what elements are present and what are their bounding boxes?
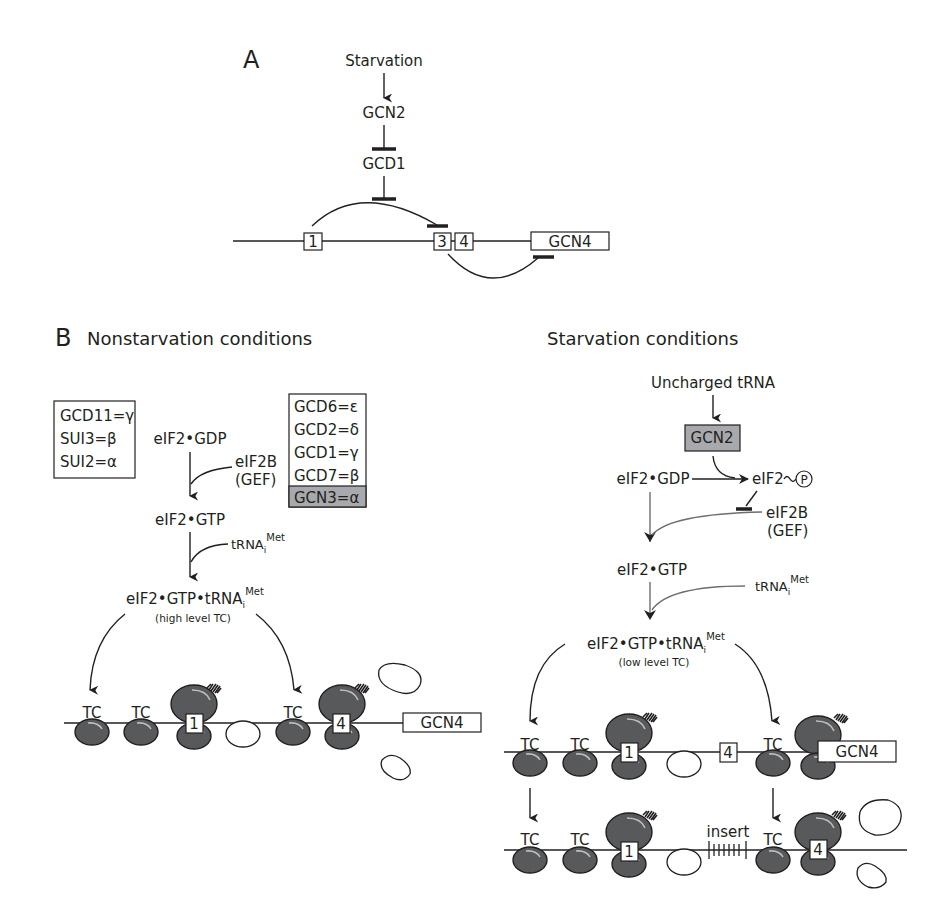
released-40s-subunit — [667, 751, 701, 777]
starvation-title: Starvation conditions — [547, 328, 738, 349]
gef-label: (GEF) — [235, 471, 276, 489]
released-40s-subunit — [381, 755, 410, 779]
eif2-gdp-label: eIF2•GDP — [617, 470, 690, 488]
tc-label: TC — [570, 831, 590, 849]
subunit-label: GCD7=β — [294, 467, 359, 485]
trna-input-curve — [191, 544, 228, 562]
subunit-label: SUI2=α — [60, 453, 117, 471]
eif2b-label: eIF2B — [766, 504, 808, 522]
subunit-label: GCD1=γ — [294, 444, 359, 462]
tc-label: TC — [763, 831, 783, 849]
released-60s-subunit — [379, 663, 421, 693]
trna-label: tRNAiMet — [231, 532, 285, 555]
eif2-gtp-label: eIF2•GTP — [617, 561, 687, 579]
gcn2-label: GCN2 — [691, 429, 734, 447]
subunit-label: SUI3=β — [60, 430, 117, 448]
uorf1-label: 1 — [189, 715, 199, 733]
scanning-40s-subunit — [756, 847, 790, 873]
scanning-40s-subunit — [276, 719, 310, 745]
panel-a-label: A — [243, 46, 260, 74]
gcn2-label: GCN2 — [363, 104, 406, 122]
trna-label: tRNAiMet — [755, 574, 809, 597]
released-60s-subunit — [859, 800, 901, 835]
scanning-40s-subunit — [563, 847, 597, 873]
uorf1-label: 1 — [624, 744, 634, 762]
phospho-bond-icon — [784, 477, 796, 482]
arrow-icon — [256, 614, 294, 690]
eif2b-input-curve — [191, 467, 232, 484]
gcn2-phosphorylation-curve — [713, 456, 735, 478]
released-40s-subunit — [857, 863, 886, 887]
panel-b-starvation: Starvation conditions Uncharged tRNA GCN… — [504, 328, 907, 888]
phosphate-label: P — [800, 473, 807, 487]
gcn3-label: GCN3=α — [294, 489, 359, 507]
scanning-40s-subunit — [513, 750, 547, 776]
arrow-icon — [90, 614, 125, 690]
uorf1-label: 1 — [308, 233, 318, 251]
tc-complex-label: eIF2•GTP•tRNAiMet — [126, 586, 264, 610]
arc-uorf3-to-gcn4 — [448, 254, 538, 278]
uorf4-label: 4 — [336, 715, 346, 733]
released-40s-subunit — [667, 849, 701, 875]
tc-complex-label: eIF2•GTP•tRNAiMet — [587, 631, 725, 655]
gef-label: (GEF) — [767, 522, 808, 540]
eif2-phospho-label: eIF2 — [752, 470, 784, 488]
gcd1-label: GCD1 — [362, 155, 405, 173]
released-40s-subunit — [226, 721, 260, 747]
subunit-label: GCD11=γ — [60, 407, 134, 425]
nonstarvation-title: Nonstarvation conditions — [87, 328, 312, 349]
tc-level-label: (low level TC) — [619, 656, 690, 668]
eif2-gdp-label: eIF2•GDP — [154, 430, 227, 448]
trna-input-curve — [652, 586, 745, 610]
insert-label: insert — [707, 823, 750, 841]
tc-label: TC — [520, 831, 540, 849]
tc-level-label: (high level TC) — [155, 612, 231, 624]
uorf4-label: 4 — [813, 841, 823, 859]
subunit-label: GCD6=ε — [294, 398, 358, 416]
gcn4-label: GCN4 — [549, 233, 592, 251]
eif2-gtp-label: eIF2•GTP — [155, 511, 225, 529]
scanning-40s-subunit — [513, 847, 547, 873]
gcn4-regulation-diagram: A Starvation GCN2 GCD1 1 3 4 GCN4 B Nons… — [0, 0, 948, 918]
eif2b-label: eIF2B — [235, 453, 277, 471]
trna-coil-icon — [834, 714, 848, 723]
scanning-40s-subunit — [563, 750, 597, 776]
uorf3-label: 3 — [437, 233, 447, 251]
gcn4-label: GCN4 — [421, 714, 464, 732]
arrow-icon — [530, 644, 565, 721]
panel-a: A Starvation GCN2 GCD1 1 3 4 GCN4 — [233, 46, 609, 278]
scanning-40s-subunit — [756, 750, 790, 776]
eif2b-input-curve — [652, 512, 762, 535]
uorf4-label: 4 — [459, 233, 469, 251]
uncharged-trna-label: Uncharged tRNA — [651, 374, 776, 392]
starvation-label: Starvation — [345, 52, 423, 70]
inhibition-line — [746, 491, 757, 506]
scanning-40s-subunit — [75, 719, 109, 745]
uorf1-label: 1 — [624, 843, 634, 861]
gcn4-label: GCN4 — [836, 743, 879, 761]
panel-b-label: B — [55, 324, 71, 352]
panel-b-nonstarvation: B Nonstarvation conditions GCD11=γ SUI3=… — [54, 324, 481, 780]
arrow-icon — [735, 644, 772, 721]
subunit-label: GCD2=δ — [294, 421, 359, 439]
uorf4-label: 4 — [723, 744, 733, 762]
arc-uorf1-to-uorf3 — [312, 203, 437, 226]
scanning-40s-subunit — [124, 719, 158, 745]
